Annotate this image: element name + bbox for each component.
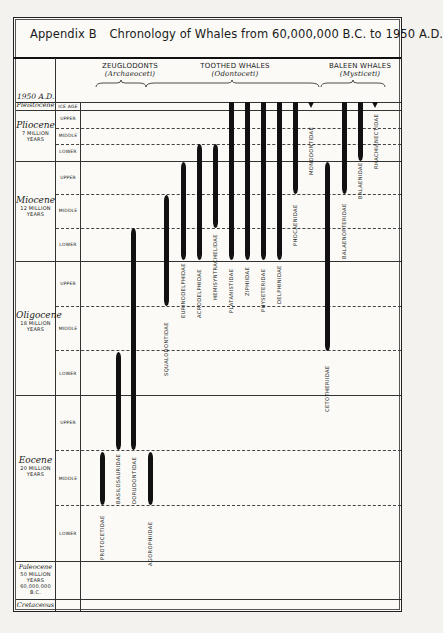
- label-agorophiidae: AGOROPHIIDAE: [147, 522, 153, 566]
- epoch-name: Pleistocene: [16, 102, 55, 109]
- label-physeteridae: PHYSETERIDAE: [260, 269, 266, 312]
- title-text: Chronology of Whales from 60,000,000 B.C…: [109, 27, 443, 41]
- subdivision-miocene-upper: UPPER: [56, 175, 80, 180]
- epoch-duration: 20 MILLION YEARS: [16, 465, 55, 477]
- epoch-pliocene: Pliocene 7 MILLION YEARS: [16, 120, 55, 142]
- subdivision-oligocene-middle: MIDDLE: [56, 326, 80, 331]
- epoch-oligocene: Oligocene 18 MILLION YEARS: [16, 310, 55, 332]
- label-rhachianectidae: RHACHIANECTIDAE: [373, 114, 379, 169]
- row-line-eocene: [16, 561, 401, 562]
- bar-balaenopteridae: [342, 102, 347, 194]
- epoch-eocene: Eocene 20 MILLION YEARS: [16, 455, 55, 477]
- epoch-pleistocene: Pleistocene: [16, 102, 55, 109]
- appendix-label: Appendix B: [30, 27, 97, 41]
- bar-delphinidae: [277, 102, 282, 260]
- bar-agorophiidae: [148, 452, 153, 505]
- row-line-eocene-middle: [56, 505, 401, 506]
- bar-cetotheriidae: [325, 162, 330, 351]
- subdivision-eocene-middle: MIDDLE: [56, 476, 80, 481]
- bar-phocaenidae: [293, 102, 298, 194]
- brace-baleen-whales: [320, 80, 386, 88]
- subdivision-pliocene-upper: UPPER: [56, 116, 80, 121]
- bar-eurinodelphidae: [181, 162, 186, 260]
- bar-ziphiidae: [245, 102, 250, 260]
- group-name: BALEEN WHALES: [325, 62, 395, 70]
- subdivision-eocene-lower: LOWER: [56, 531, 80, 536]
- group-zeuglodonts: ZEUGLODONTS (Archaeoceti): [90, 62, 170, 78]
- group-subname: (Mysticeti): [325, 70, 395, 78]
- brace-zeuglodonts: [95, 80, 147, 88]
- label-dorudontidae: DORUDONTIDAE: [131, 457, 137, 504]
- label-hemisyntrachelidae: HEMISYNTRACHELIDAE: [212, 234, 218, 300]
- label-eurinodelphidae: EURINODELPHIDAE: [180, 263, 186, 318]
- epoch-duration: 50 MILLION YEARS: [16, 571, 55, 583]
- label-ziphiidae: ZIPHIIDAE: [244, 267, 250, 296]
- epoch-cretaceous: Cretaceous: [16, 602, 55, 609]
- group-toothed-whales: TOOTHED WHALES (Odontoceti): [190, 62, 280, 78]
- epoch-date-note: 60,000,000 B.C.: [16, 583, 55, 595]
- epoch-miocene: Miocene 12 MILLION YEARS: [16, 195, 55, 217]
- label-monodontidae: MONODONTIDAE: [308, 127, 314, 175]
- row-line-miocene: [16, 261, 401, 262]
- col-line-subdivision: [80, 102, 81, 611]
- subdivision-miocene-middle: MIDDLE: [56, 208, 80, 213]
- subdivision-ice-age: ICE AGE: [56, 104, 80, 109]
- label-balaenopteridae: BALAENOPTERIDAE: [341, 203, 347, 259]
- bar-rhachianectidae: [372, 102, 378, 108]
- epoch-name: Paleocene: [16, 564, 55, 571]
- label-cetotheriidae: CETOTHERIIDAE: [324, 366, 330, 412]
- bar-balaenidae: [358, 102, 363, 161]
- row-line-eocene-upper: [56, 450, 401, 451]
- bar-acrodelphidae: [197, 144, 202, 260]
- subdivision-eocene-upper: UPPER: [56, 420, 80, 425]
- row-line-paleocene: [16, 599, 401, 600]
- epoch-duration: 7 MILLION YEARS: [16, 130, 55, 142]
- row-line-oligocene-middle: [56, 350, 401, 351]
- epoch-name: Cretaceous: [16, 602, 55, 609]
- epoch-name: Miocene: [16, 195, 55, 205]
- bar-hemisyntrachelidae: [213, 144, 218, 228]
- bar-dorudontidae: [131, 228, 136, 450]
- chart-title: Appendix B Chronology of Whales from 60,…: [30, 27, 400, 41]
- bar-basilosauridae: [116, 352, 121, 450]
- label-squalodontidae: SQUALODONTIDAE: [163, 322, 169, 376]
- col-line-epoch: [55, 58, 56, 611]
- date-1950-label: 1950 A.D.: [17, 92, 54, 101]
- bar-platanistidae: [229, 102, 234, 260]
- group-subname: (Odontoceti): [190, 70, 280, 78]
- label-balaenidae: BALAENIDAE: [357, 162, 363, 199]
- label-delphinidae: DELPHINIDAE: [276, 265, 282, 304]
- subdivision-oligocene-lower: LOWER: [56, 371, 80, 376]
- label-acrodelphidae: ACRODELPHIDAE: [196, 269, 202, 318]
- subdivision-miocene-lower: LOWER: [56, 242, 80, 247]
- brace-toothed-whales: [145, 80, 320, 88]
- group-name: ZEUGLODONTS: [90, 62, 170, 70]
- bar-protocetidae: [100, 452, 105, 505]
- group-subname: (Archaeoceti): [90, 70, 170, 78]
- epoch-name: Pliocene: [16, 120, 55, 130]
- label-platanistidae: PLATANISTIDAE: [228, 269, 234, 313]
- label-basilosauridae: BASILOSAURIDAE: [115, 454, 121, 504]
- epoch-duration: 18 MILLION YEARS: [16, 320, 55, 332]
- label-phocaenidae: PHOCAENIDAE: [292, 204, 298, 246]
- epoch-name: Oligocene: [16, 310, 55, 320]
- group-baleen-whales: BALEEN WHALES (Mysticeti): [325, 62, 395, 78]
- title-divider: [14, 57, 401, 59]
- label-protocetidae: PROTOCETIDAE: [99, 515, 105, 560]
- group-name: TOOTHED WHALES: [190, 62, 280, 70]
- epoch-duration: 12 MILLION YEARS: [16, 205, 55, 217]
- subdivision-pliocene-lower: LOWER: [56, 149, 80, 154]
- subdivision-pliocene-middle: MIDDLE: [56, 133, 80, 138]
- row-line-oligocene: [16, 395, 401, 396]
- bar-squalodontidae: [164, 195, 169, 306]
- epoch-name: Eocene: [16, 455, 55, 465]
- bar-monodontidae: [308, 102, 314, 108]
- epoch-paleocene: Paleocene 50 MILLION YEARS 60,000,000 B.…: [16, 564, 55, 595]
- subdivision-oligocene-upper: UPPER: [56, 281, 80, 286]
- bar-physeteridae: [261, 102, 266, 260]
